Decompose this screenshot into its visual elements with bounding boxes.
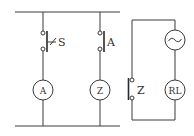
load-label-rl: RL: [169, 86, 182, 96]
contact-terminal-bottom: [98, 47, 102, 51]
contact-terminal-top: [98, 31, 102, 35]
contact-terminal-bottom: [41, 47, 45, 51]
device-label-z: Z: [97, 86, 103, 96]
contact-terminal-bottom: [130, 96, 134, 100]
branch-2: A Z: [90, 12, 116, 126]
circuit-diagram: S A A Z Z R: [0, 0, 194, 136]
switch-label-s: S: [58, 36, 66, 49]
contact-label-z: Z: [137, 84, 145, 97]
contact-terminal-top: [41, 31, 45, 35]
contact-terminal-top: [130, 78, 134, 82]
branch-1: S A: [33, 12, 66, 126]
push-button-switch-icon: [47, 31, 56, 52]
left-circuit: S A A Z: [15, 12, 120, 126]
device-label-a: A: [39, 86, 47, 96]
switch-label-a: A: [106, 36, 116, 49]
right-circuit: Z RL: [129, 20, 186, 120]
